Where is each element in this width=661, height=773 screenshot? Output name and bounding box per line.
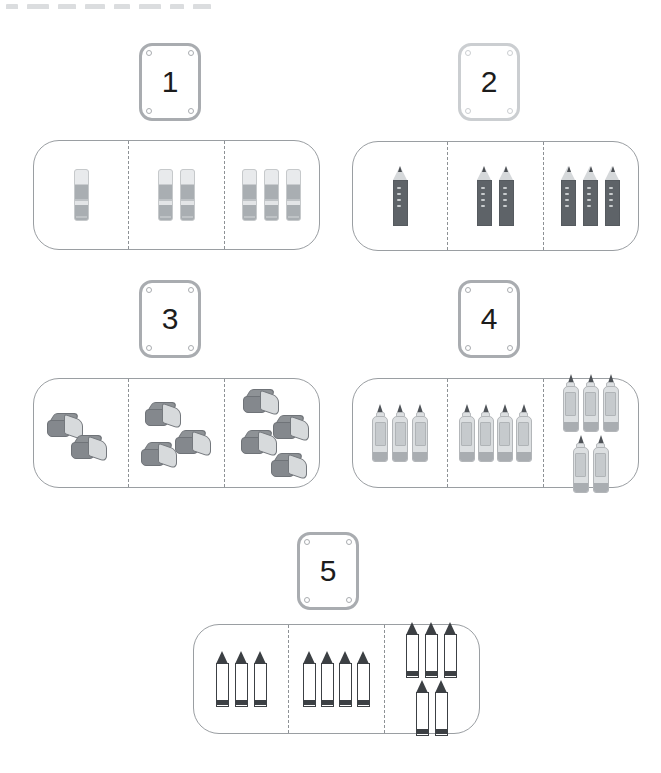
- pencil-icon: [561, 166, 576, 226]
- panel-1-section-1: [34, 141, 128, 249]
- card-hole-icon: [188, 50, 194, 56]
- panel-3-section-2: [128, 379, 223, 487]
- card-hole-icon: [188, 345, 194, 351]
- glue-bottle-icon: [563, 374, 579, 432]
- pencil-group: [477, 166, 514, 226]
- number-card-1[interactable]: 1: [139, 43, 201, 121]
- card-hole-icon: [304, 597, 310, 603]
- card-hole-icon: [465, 287, 471, 293]
- card-hole-icon: [146, 50, 152, 56]
- crayon-icon: [320, 651, 335, 707]
- card-hole-icon: [465, 108, 471, 114]
- pencil-group: [393, 166, 408, 226]
- pencil-group: [561, 166, 620, 226]
- number-card-2[interactable]: 2: [458, 43, 520, 121]
- card-hole-icon: [304, 539, 310, 545]
- crayon-group: [302, 651, 371, 707]
- toolbar-chip: [114, 4, 130, 9]
- glue-stick-icon: [180, 169, 195, 221]
- panel-5-section-3: [384, 625, 479, 733]
- pencil-icon: [499, 166, 514, 226]
- glue-stick-icon: [286, 169, 301, 221]
- card-hole-icon: [146, 108, 152, 114]
- glue-bottle-icon: [478, 404, 494, 462]
- eraser-icon: [175, 430, 213, 456]
- eraser-icon: [145, 402, 183, 428]
- glue-stick-group: [242, 169, 301, 221]
- pencil-icon: [583, 166, 598, 226]
- card-hole-icon: [346, 597, 352, 603]
- card-hole-icon: [188, 287, 194, 293]
- number-card-label: 2: [481, 67, 498, 97]
- panel-4-section-3: [543, 379, 638, 487]
- panel-5-section-1: [194, 625, 288, 733]
- number-card-label: 1: [162, 67, 179, 97]
- card-hole-icon: [346, 539, 352, 545]
- eraser-icon: [71, 435, 109, 461]
- crayon-icon: [234, 651, 249, 707]
- crayon-icon: [302, 651, 317, 707]
- toolbar-chip: [27, 4, 49, 9]
- card-hole-icon: [146, 345, 152, 351]
- panel-1-section-3: [224, 141, 319, 249]
- number-card-3[interactable]: 3: [139, 280, 201, 358]
- glue-stick-group: [74, 169, 89, 221]
- glue-bottle-group: [372, 404, 428, 462]
- pencil-icon: [605, 166, 620, 226]
- panel-2-section-3: [543, 142, 638, 250]
- glue-bottle-group: [555, 374, 627, 493]
- pencil-icon: [393, 166, 408, 226]
- crayon-icon: [424, 622, 439, 678]
- glue-bottle-icon: [573, 435, 589, 493]
- number-card-4[interactable]: 4: [458, 280, 520, 358]
- eraser-group: [229, 383, 315, 483]
- panel-4-section-1: [353, 379, 447, 487]
- glue-bottle-icon: [497, 404, 513, 462]
- glue-bottle-icon: [593, 435, 609, 493]
- crayon-icon: [338, 651, 353, 707]
- crayon-group: [215, 651, 268, 707]
- card-hole-icon: [188, 108, 194, 114]
- pencil-icon: [477, 166, 492, 226]
- item-panel-1: [33, 140, 320, 250]
- worksheet-sheet: 1: [0, 0, 661, 773]
- crayon-icon: [215, 651, 230, 707]
- toolbar-chip: [6, 4, 18, 9]
- panel-2-section-2: [447, 142, 542, 250]
- glue-bottle-group: [459, 404, 532, 462]
- glue-stick-icon: [158, 169, 173, 221]
- eraser-icon: [141, 442, 179, 468]
- glue-bottle-icon: [412, 404, 428, 462]
- panel-3-section-3: [224, 379, 319, 487]
- glue-bottle-icon: [392, 404, 408, 462]
- panel-5-section-2: [288, 625, 383, 733]
- number-card-5[interactable]: 5: [297, 532, 359, 610]
- crayon-icon: [356, 651, 371, 707]
- item-panel-4: [352, 378, 639, 488]
- eraser-group: [133, 385, 219, 481]
- glue-stick-icon: [242, 169, 257, 221]
- card-hole-icon: [507, 50, 513, 56]
- panel-1-section-2: [128, 141, 223, 249]
- toolbar-chip: [193, 4, 211, 9]
- glue-bottle-icon: [459, 404, 475, 462]
- toolbar-chip: [85, 4, 105, 9]
- number-card-label: 3: [162, 304, 179, 334]
- toolbar-chip: [58, 4, 76, 9]
- panel-2-section-1: [353, 142, 447, 250]
- card-hole-icon: [465, 345, 471, 351]
- crayon-icon: [443, 622, 458, 678]
- glue-stick-icon: [74, 169, 89, 221]
- toolbar-chip: [170, 4, 184, 9]
- glue-stick-group: [158, 169, 195, 221]
- card-hole-icon: [507, 108, 513, 114]
- toolbar-chip: [139, 4, 161, 9]
- card-hole-icon: [507, 287, 513, 293]
- glue-bottle-icon: [583, 374, 599, 432]
- glue-bottle-icon: [603, 374, 619, 432]
- crayon-icon: [253, 651, 268, 707]
- glue-bottle-icon: [372, 404, 388, 462]
- eraser-group: [39, 385, 123, 481]
- card-hole-icon: [146, 287, 152, 293]
- glue-stick-icon: [264, 169, 279, 221]
